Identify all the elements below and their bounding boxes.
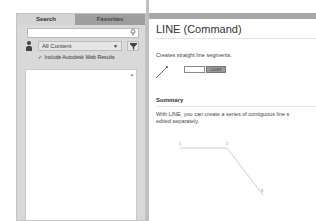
panel-splitter[interactable] [146,0,149,221]
content-filter-select[interactable]: All Content ▼ [38,41,122,51]
checkmark-icon: ✓ [38,54,43,60]
tab-search[interactable]: Search [17,14,75,25]
line-diagram: 1 2 3 [170,140,270,210]
line-tool-icon [154,64,170,80]
summary-heading: Summary [156,97,183,103]
summary-text: With LINE, you can create a series of co… [156,111,316,125]
svg-text:2: 2 [226,141,229,146]
page-title: LINE (Command) [156,23,242,35]
content-header-bar [149,13,316,19]
filter-icon [130,43,137,50]
scroll-up-icon[interactable]: ▲ [130,72,134,77]
svg-text:1: 1 [179,141,182,146]
title-divider [156,38,316,39]
include-web-results-label: Include Autodesk Web Results [44,54,114,60]
include-web-results-checkbox[interactable]: ✓ Include Autodesk Web Results [38,54,115,60]
search-icon[interactable]: ⚲ [130,28,136,37]
filter-button[interactable] [127,41,139,51]
summary-divider [156,106,316,107]
command-description: Creates straight line segments. [156,52,232,58]
svg-text:3: 3 [261,188,264,193]
find-command-button[interactable]: LLIST [206,66,226,73]
user-icon [26,41,32,51]
results-list[interactable]: ▲ [25,69,137,221]
content-filter-value: All Content [42,43,71,49]
tab-favorites[interactable]: Favorites [75,14,145,25]
chevron-down-icon: ▼ [113,42,118,51]
panel-tabs: Search Favorites [17,14,145,25]
command-input[interactable] [184,66,205,73]
search-input[interactable]: ⚲ [27,28,139,38]
search-panel: Search Favorites ⚲ All Content ▼ ✓ Inclu… [16,13,146,221]
